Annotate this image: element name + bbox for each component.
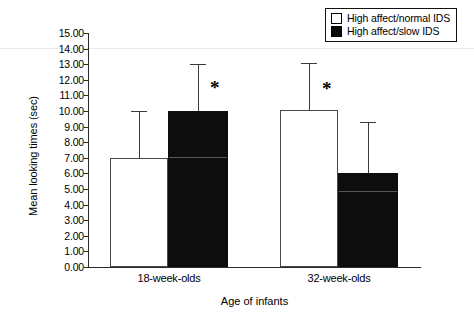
y-tick-0 [84, 267, 89, 268]
y-tick-4 [84, 205, 89, 206]
y-tick-15 [84, 33, 89, 34]
legend-item-slow-ids: High affect/slow IDS [331, 25, 450, 38]
y-tick-label-8: 8.00 [40, 137, 84, 147]
x-category-label-32week: 32-week-olds [279, 272, 399, 284]
y-tick-label-5: 5.00 [40, 184, 84, 194]
legend-item-normal-ids: High affect/normal IDS [331, 12, 450, 25]
y-tick-5 [84, 189, 89, 190]
x-axis-title: Age of infants [88, 295, 421, 307]
errorbar-18week-normal-ids [139, 111, 140, 158]
y-tick-label-15: 15.00 [40, 28, 84, 38]
filled-square-icon [331, 26, 342, 37]
y-tick-label-9: 9.00 [40, 122, 84, 132]
errorbar-32week-normal-ids [309, 63, 310, 111]
y-tick-label-2: 2.00 [40, 231, 84, 241]
y-tick-1 [84, 251, 89, 252]
errorbar-cap-18week-normal-ids [131, 111, 147, 112]
y-tick-label-12: 12.00 [40, 75, 84, 85]
errorbar-cap-32week-slow-ids [360, 122, 376, 123]
y-tick-label-7: 7.00 [40, 153, 84, 163]
chart-legend: High affect/normal IDS High affect/slow … [325, 8, 457, 42]
errorbar-32week-slow-ids [368, 122, 369, 174]
y-tick-label-0: 0.00 [40, 262, 84, 272]
legend-label-slow-ids: High affect/slow IDS [347, 25, 439, 38]
y-tick-label-11: 11.00 [40, 90, 84, 100]
y-tick-14 [84, 49, 89, 50]
y-tick-11 [84, 95, 89, 96]
bar-32week-slow-ids [338, 173, 398, 267]
y-tick-label-6: 6.00 [40, 168, 84, 178]
y-tick-label-14: 14.00 [40, 44, 84, 54]
y-axis-line [88, 33, 89, 268]
significance-star-18week-slow-ids: * [210, 78, 220, 97]
y-tick-label-3: 3.00 [40, 215, 84, 225]
y-axis-title: Mean looking times (sec) [27, 61, 39, 251]
legend-label-normal-ids: High affect/normal IDS [347, 12, 450, 25]
x-category-label-18week: 18-week-olds [109, 272, 229, 284]
y-tick-label-10: 10.00 [40, 106, 84, 116]
y-tick-7 [84, 158, 89, 159]
bar-32week-normal-ids [280, 110, 338, 267]
y-tick-9 [84, 127, 89, 128]
y-tick-label-1: 1.00 [40, 246, 84, 256]
y-tick-6 [84, 173, 89, 174]
bar-18week-slow-ids [168, 111, 228, 267]
y-tick-2 [84, 236, 89, 237]
bar-chart: High affect/normal IDS High affect/slow … [0, 0, 474, 318]
y-tick-13 [84, 64, 89, 65]
y-tick-8 [84, 142, 89, 143]
y-tick-10 [84, 111, 89, 112]
bar-18week-normal-ids [110, 158, 168, 267]
errorbar-18week-slow-ids [198, 64, 199, 111]
y-tick-label-4: 4.00 [40, 200, 84, 210]
x-axis-line [88, 267, 421, 268]
significance-star-32week-normal-ids: * [322, 79, 332, 98]
y-tick-12 [84, 80, 89, 81]
hollow-square-icon [331, 13, 342, 24]
errorbar-cap-18week-slow-ids [190, 64, 206, 65]
y-tick-3 [84, 220, 89, 221]
errorbar-cap-32week-normal-ids [301, 63, 317, 64]
y-tick-label-13: 13.00 [40, 59, 84, 69]
